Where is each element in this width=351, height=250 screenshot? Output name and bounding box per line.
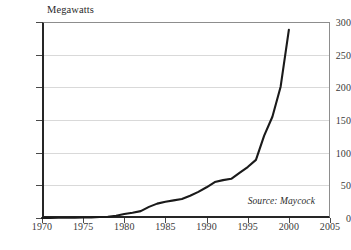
x-tick-mark xyxy=(289,218,290,223)
x-tick-mark xyxy=(248,218,249,223)
y-tick-mark xyxy=(36,22,42,23)
y-tick-label: 150 xyxy=(321,115,351,126)
photovoltaic-production-chart: Megawatts 050100150200250300 19701975198… xyxy=(0,0,351,250)
y-tick-label: 100 xyxy=(321,147,351,158)
x-tick-mark xyxy=(165,218,166,223)
y-axis-label: Megawatts xyxy=(47,4,94,15)
y-tick-mark xyxy=(36,120,42,121)
y-tick-label: 300 xyxy=(321,17,351,28)
plot-frame xyxy=(42,22,330,218)
y-tick-mark xyxy=(36,185,42,186)
x-tick-mark xyxy=(124,218,125,223)
y-tick-label: 250 xyxy=(321,49,351,60)
y-tick-label: 50 xyxy=(321,180,351,191)
y-tick-label: 200 xyxy=(321,82,351,93)
x-tick-mark xyxy=(83,218,84,223)
y-tick-mark xyxy=(36,87,42,88)
x-tick-mark xyxy=(42,218,43,223)
x-tick-mark xyxy=(207,218,208,223)
y-tick-mark xyxy=(36,153,42,154)
y-tick-mark xyxy=(36,55,42,56)
x-tick-mark xyxy=(330,218,331,223)
source-annotation: Source: Maycock xyxy=(248,196,315,206)
